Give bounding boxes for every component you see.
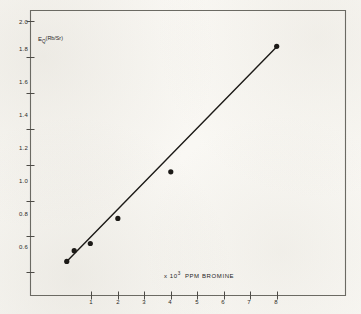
trend-line	[66, 45, 278, 262]
data-point-marker	[168, 169, 173, 174]
chart-figure: 2.0 1.8 1.6 1.4 1.2 1.0 0.8 0.6 1 2 3 4 …	[0, 0, 361, 314]
frame-rect	[31, 11, 346, 296]
plot-canvas	[0, 0, 361, 314]
data-point-marker	[64, 259, 69, 264]
data-point-marker	[88, 241, 93, 246]
data-point-marker	[274, 44, 279, 49]
data-point-marker	[72, 248, 77, 253]
data-point-marker	[115, 216, 120, 221]
plot-frame	[31, 11, 346, 296]
